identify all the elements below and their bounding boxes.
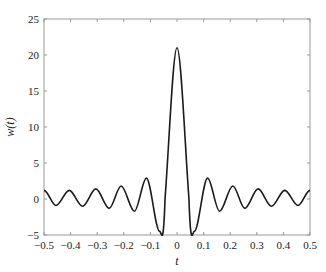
x-tick-label: −0.4 [61,239,81,251]
y-tick-label: 25 [28,13,40,25]
x-tick-label: 0.2 [223,239,237,251]
x-tick-label: −0.2 [114,239,134,251]
y-tick-label: 20 [28,49,40,61]
x-tick-label: 0.3 [250,239,264,251]
y-tick-label: 15 [28,85,40,97]
x-tick-label: 0.5 [303,239,317,251]
y-tick-label: 10 [28,121,40,133]
chart: −0.5−0.4−0.3−0.2−0.100.10.20.30.40.5 −50… [0,0,326,272]
line-series-w [44,48,310,236]
y-tick-label: 5 [34,157,40,169]
x-tick-label: 0.1 [197,239,211,251]
plot-area-border [44,19,310,235]
x-tick-label: 0.4 [277,239,291,251]
x-tick-label: −0.3 [87,239,107,251]
y-axis: −50510152025 [27,13,310,241]
y-axis-label: w(t) [3,117,17,136]
x-axis-label: t [175,254,179,268]
y-tick-label: −5 [27,229,39,241]
x-tick-label: 0 [174,239,180,251]
y-tick-label: 0 [34,193,40,205]
x-tick-label: −0.1 [140,239,160,251]
plot-frame [44,19,310,235]
